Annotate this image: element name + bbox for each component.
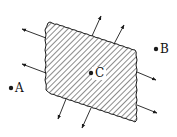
point-a-dot	[9, 86, 13, 90]
arrow-icon	[137, 105, 157, 113]
arrow-icon	[58, 99, 66, 119]
arrow-icon	[114, 25, 124, 44]
point-b-dot	[154, 47, 158, 51]
point-a-label: A	[15, 82, 24, 94]
arrow-icon	[22, 29, 46, 38]
arrow-icon	[82, 108, 91, 128]
point-c-dot	[89, 71, 93, 75]
point-b-label: B	[160, 43, 169, 55]
arrow-icon	[137, 72, 156, 80]
point-c-label: C	[95, 67, 104, 79]
arrow-icon	[92, 16, 101, 36]
diagram-canvas	[0, 0, 177, 137]
arrow-icon	[22, 64, 46, 73]
